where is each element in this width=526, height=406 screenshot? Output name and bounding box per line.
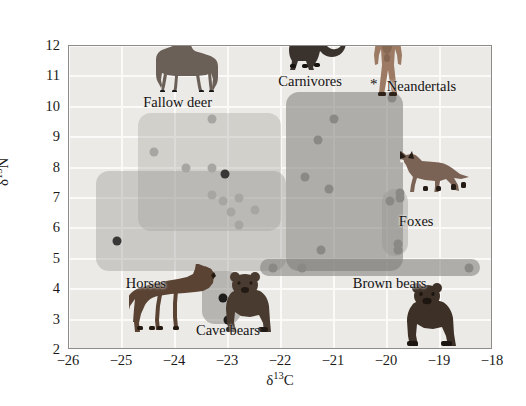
x-tick-label: −20	[366, 352, 406, 369]
x-tick-label: −18	[472, 352, 512, 369]
x-tick-label: −22	[260, 352, 300, 369]
x-tick-label: −25	[101, 352, 141, 369]
x-tick-label: −24	[154, 352, 194, 369]
scatter-figure: Fallow deerCarnivoresNeandertalsFoxesBro…	[0, 0, 526, 406]
x-tick-label: −26	[48, 352, 88, 369]
x-axis-title: δ13C	[266, 370, 294, 389]
x-tick-label: −23	[207, 352, 247, 369]
x-axis-tick-labels: −26−25−24−23−22−21−20−19−18	[0, 0, 526, 406]
x-tick-label: −19	[419, 352, 459, 369]
x-tick-label: −21	[313, 352, 353, 369]
